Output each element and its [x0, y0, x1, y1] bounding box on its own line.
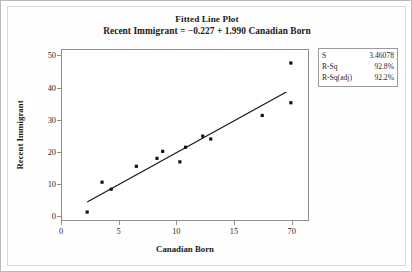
data-point [289, 61, 292, 64]
scatter-plot-canvas [62, 50, 308, 220]
y-axis-title: Recent Immigrant [15, 100, 25, 169]
data-point [209, 137, 212, 140]
data-point [261, 114, 264, 117]
x-tick-label: 0 [59, 227, 63, 236]
regression-equation-subtitle: Recent Immigrant = −0.227 + 1.990 Canadi… [1, 26, 412, 37]
x-tick-mark [176, 221, 177, 225]
data-point [178, 160, 181, 163]
statistics-legend-box: S3.46078R-Sq92.8%R-Sq(adj)92.2% [318, 48, 398, 87]
y-tick-label: 40 [48, 83, 56, 92]
x-tick-label: 5 [117, 227, 121, 236]
x-tick-label: 10 [172, 227, 180, 236]
statistic-row: S3.46078 [322, 51, 394, 62]
y-tick-label: 20 [48, 147, 56, 156]
data-point [201, 135, 204, 138]
data-point [184, 146, 187, 149]
statistic-key: R-Sq [322, 62, 338, 73]
statistic-value: 92.2% [374, 73, 394, 84]
statistic-row: R-Sq(adj)92.2% [322, 73, 394, 84]
x-tick-mark [61, 221, 62, 225]
data-point [161, 150, 164, 153]
y-tick-label: 0 [52, 212, 56, 221]
statistic-value: 92.8% [374, 62, 394, 73]
y-axis-tick-labels: 01020304050 [37, 49, 56, 221]
chart-title-block: Fitted Line Plot Recent Immigrant = −0.2… [1, 14, 412, 37]
y-tick-label: 30 [48, 115, 56, 124]
plot-area [61, 49, 309, 221]
x-axis-title: Canadian Born [61, 244, 309, 254]
page-title: Fitted Line Plot [1, 14, 412, 25]
data-point [155, 157, 158, 160]
x-axis-tick-labels: 05101570 [61, 227, 309, 239]
x-tick-mark [234, 221, 235, 225]
data-point [86, 210, 89, 213]
data-point [100, 181, 103, 184]
statistic-value: 3.46078 [369, 51, 394, 62]
statistic-key: R-Sq(adj) [322, 73, 352, 84]
y-tick-label: 50 [48, 51, 56, 60]
x-tick-mark [119, 221, 120, 225]
statistic-key: S [322, 51, 326, 62]
data-point-markers [86, 61, 293, 213]
data-point [289, 101, 292, 104]
data-point [135, 165, 138, 168]
x-tick-mark [292, 221, 293, 225]
data-point [110, 188, 113, 191]
y-tick-label: 10 [48, 180, 56, 189]
x-tick-label: 15 [230, 227, 238, 236]
fitted-line-plot-figure: Fitted Line Plot Recent Immigrant = −0.2… [0, 0, 412, 272]
statistic-row: R-Sq92.8% [322, 62, 394, 73]
x-tick-label: 70 [288, 227, 296, 236]
